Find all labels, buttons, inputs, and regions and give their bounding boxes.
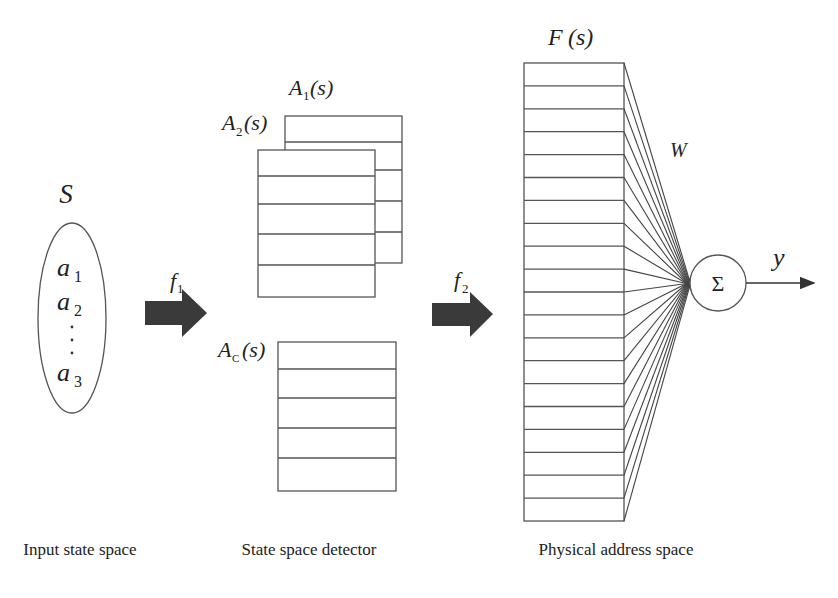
output-y: y (746, 243, 814, 283)
weight-connection-line (624, 273, 693, 453)
svg-text:2: 2 (236, 124, 243, 139)
svg-text:a: a (57, 358, 70, 387)
caption-physical-address-space: Physical address space (539, 540, 694, 559)
block-arrow-right-icon (432, 292, 493, 337)
mapping-f2: f 2 (432, 267, 493, 337)
weight-connection-line (624, 271, 693, 475)
label-a1-s: A 1 (s) (287, 75, 333, 103)
svg-text:(s): (s) (310, 75, 333, 100)
weight-lines (624, 63, 695, 521)
weight-connection-line (624, 277, 691, 384)
svg-text:(s): (s) (242, 337, 265, 362)
svg-text:A: A (287, 75, 303, 100)
svg-text:a: a (57, 287, 70, 316)
table-f (524, 63, 624, 521)
svg-text:A: A (220, 110, 236, 135)
vertical-ellipsis (71, 326, 74, 355)
weight-connection-line (624, 200, 691, 289)
weight-connection-line (624, 86, 694, 296)
table-a2 (258, 150, 375, 297)
weight-connection-line (624, 63, 695, 297)
state-space-detector: A 1 (s) A 2 (s) A C (s (216, 75, 402, 559)
svg-text:(s): (s) (244, 110, 267, 135)
caption-state-space-detector: State space detector (242, 540, 377, 559)
svg-text:1: 1 (303, 88, 310, 103)
sigma-icon: Σ (712, 271, 725, 296)
input-set-ellipse (38, 223, 106, 413)
mapping-f1: f 1 (145, 268, 207, 337)
svg-text:2: 2 (74, 302, 82, 319)
summation-node: Σ (690, 255, 746, 311)
cmac-diagram: S a 1 a 2 a 3 Input state space f 1 A (0, 0, 838, 598)
element-a3: a 3 (57, 358, 82, 390)
output-label-y: y (770, 243, 785, 272)
table-ac (278, 342, 396, 491)
weight-connection-line (624, 178, 692, 291)
svg-text:1: 1 (74, 268, 82, 285)
svg-text:3: 3 (74, 373, 82, 390)
caption-input-state-space: Input state space (23, 540, 136, 559)
input-state-space: S a 1 a 2 a 3 Input state space (23, 179, 136, 559)
svg-text:(s): (s) (562, 24, 593, 50)
weight-connection-line (624, 270, 694, 498)
label-ac-s: A C (s) (216, 337, 265, 364)
svg-text:A: A (216, 337, 232, 362)
svg-text:a: a (57, 253, 70, 282)
label-a2-s: A 2 (s) (220, 110, 267, 139)
physical-address-space: F (s) W Physical address space (524, 24, 695, 559)
element-a1: a 1 (57, 253, 82, 285)
svg-text:F: F (547, 24, 563, 50)
svg-text:C: C (232, 352, 239, 364)
set-label-s: S (59, 179, 73, 209)
block-arrow-right-icon (145, 289, 207, 337)
element-a2: a 2 (57, 287, 82, 319)
svg-text:2: 2 (462, 281, 469, 296)
weights-label-w: W (670, 139, 689, 161)
label-f-s: F (s) (547, 24, 593, 50)
